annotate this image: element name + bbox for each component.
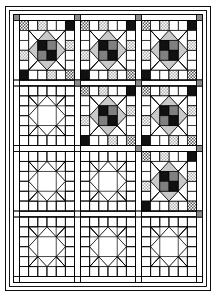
rail-cell (108, 152, 117, 162)
rail-cell-shaded (65, 40, 74, 50)
star-center-quad (169, 181, 178, 191)
four-patch-cell (126, 191, 135, 201)
rail-cell (99, 217, 108, 227)
star-block-r1c3[interactable] (142, 21, 197, 81)
four-patch-cell (151, 136, 160, 146)
star-block-r3c3[interactable] (142, 152, 197, 212)
star-block-r3c2[interactable] (81, 152, 136, 212)
four-patch-cell (126, 267, 135, 277)
star-center-quad (160, 106, 169, 116)
four-patch-cell (178, 86, 187, 96)
star-center-quad (169, 106, 178, 116)
four-patch-cell (65, 227, 74, 237)
rail-cell (160, 70, 169, 80)
rail-cell (47, 267, 56, 277)
rail-cell-shaded (99, 86, 108, 96)
star-block-r2c1[interactable] (20, 86, 75, 146)
star-block-r2c3[interactable] (142, 86, 197, 146)
four-patch-cell (20, 136, 29, 146)
rail-cell-shaded (38, 21, 47, 31)
rail-cell (20, 116, 29, 126)
sashing-strip-horizontal (14, 211, 203, 217)
star-block-r1c1[interactable] (20, 21, 75, 81)
four-patch-cell (65, 126, 74, 136)
rail-cell (20, 181, 29, 191)
four-patch-cell (142, 267, 151, 277)
rail-cell (169, 217, 178, 227)
four-patch-cell (151, 86, 160, 96)
four-patch-cell (151, 217, 160, 227)
four-patch-cell (126, 70, 135, 80)
rail-cell-shaded (20, 50, 29, 60)
four-patch-cell (126, 30, 135, 40)
star-center-quad (108, 50, 117, 60)
four-patch-cell (81, 267, 90, 277)
star-block-r4c3[interactable] (142, 217, 197, 277)
rail-cell-shaded (81, 50, 90, 60)
four-patch-cell (65, 191, 74, 201)
rail-cell-shaded (160, 152, 169, 162)
four-patch-cell (20, 96, 29, 106)
four-patch-cell (187, 126, 196, 136)
star-block-r4c2[interactable] (81, 217, 136, 277)
star-center-quad (160, 116, 169, 126)
star-center (160, 237, 178, 257)
four-patch-cell (20, 86, 29, 96)
four-patch-cell (142, 60, 151, 70)
rail-cell (47, 217, 56, 227)
cornerstone-plain (197, 277, 203, 283)
four-patch-cell (187, 136, 196, 146)
rail-cell (65, 50, 74, 60)
four-patch-cell (90, 86, 99, 96)
four-patch-cell (126, 96, 135, 106)
cornerstone-shaded (197, 15, 203, 21)
star-block-r4c1[interactable] (20, 217, 75, 277)
star-block-r1c2[interactable] (81, 21, 136, 81)
cornerstone-shaded (197, 146, 203, 152)
rail-cell (169, 152, 178, 162)
four-patch-cell (20, 217, 29, 227)
cornerstone-plain (75, 211, 81, 217)
four-patch-cell (90, 217, 99, 227)
four-patch-cell (142, 257, 151, 267)
four-patch-cell (81, 126, 90, 136)
star-center-quad (47, 40, 56, 50)
quilt-artwork (0, 0, 216, 297)
rail-cell (187, 181, 196, 191)
rail-cell (20, 106, 29, 116)
rail-cell (160, 201, 169, 211)
four-patch-cell (20, 257, 29, 267)
cornerstone-shaded (14, 15, 20, 21)
cornerstone-shaded (136, 146, 142, 152)
rail-cell (160, 267, 169, 277)
rail-cell (169, 86, 178, 96)
rail-cell (81, 247, 90, 257)
rail-cell-shaded (47, 70, 56, 80)
four-patch-cell (151, 70, 160, 80)
four-patch-cell (142, 30, 151, 40)
star-block-r2c2[interactable] (81, 86, 136, 146)
four-patch-cell (65, 60, 74, 70)
star-block-r3c1[interactable] (20, 152, 75, 212)
four-patch-cell (65, 217, 74, 227)
rail-cell-shaded (99, 21, 108, 31)
rail-cell (160, 217, 169, 227)
four-patch-cell (187, 96, 196, 106)
rail-cell (187, 50, 196, 60)
star-center (99, 171, 117, 191)
rail-cell (108, 267, 117, 277)
rail-cell-shaded (187, 171, 196, 181)
star-center-quad (47, 50, 56, 60)
four-patch-cell (187, 70, 196, 80)
four-patch-cell (187, 60, 196, 70)
star-center (38, 171, 56, 191)
four-patch-cell (29, 217, 38, 227)
four-patch-cell (126, 86, 135, 96)
rail-cell (126, 50, 135, 60)
rail-cell-shaded (169, 70, 178, 80)
four-patch-cell (178, 70, 187, 80)
cornerstone-shaded (197, 211, 203, 217)
four-patch-cell (90, 136, 99, 146)
four-patch-cell (187, 161, 196, 171)
four-patch-cell (56, 217, 65, 227)
